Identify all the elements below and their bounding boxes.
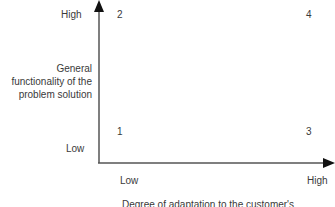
quadrant-1-label: 1 [117, 127, 123, 137]
y-axis-high-label: High [61, 10, 82, 20]
x-axis-low-label: Low [120, 176, 138, 186]
quadrant-3-label: 3 [306, 127, 312, 137]
y-axis-title-line-3: problem solution [11, 88, 92, 101]
x-axis-high-label: High [307, 176, 328, 186]
x-axis-title: Degree of adaptation to the customer's [122, 200, 294, 207]
quadrant-2-label: 2 [117, 10, 123, 20]
y-axis-title-line-2: functionality of the [11, 75, 92, 88]
y-axis-title-line-1: General [11, 62, 92, 75]
x-axis-arrow-icon [323, 158, 335, 168]
y-axis-arrow-icon [94, 0, 104, 12]
y-axis-low-label: Low [66, 144, 84, 154]
quadrant-4-label: 4 [306, 10, 312, 20]
y-axis-title: General functionality of the problem sol… [11, 62, 92, 101]
axes [0, 0, 335, 207]
